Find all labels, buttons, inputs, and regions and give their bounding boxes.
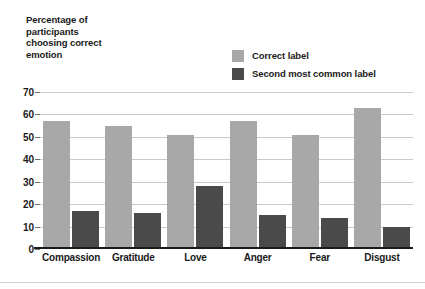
bar-second-most-common-label <box>383 227 410 249</box>
bar-chart-figure: Percentage of participants choosing corr… <box>0 0 425 289</box>
bar-group <box>289 92 351 249</box>
x-axis-category-label: Fear <box>289 252 351 263</box>
y-axis-tick-label: 60 <box>23 109 34 120</box>
x-axis-labels: CompassionGratitudeLoveAngerFearDisgust <box>40 252 413 263</box>
x-axis-category-label: Love <box>164 252 226 263</box>
plot-area: 010203040506070 <box>40 92 413 249</box>
y-axis-title-line-4: emotion <box>26 49 156 61</box>
legend-swatch-icon-correct-label <box>232 50 244 62</box>
y-axis-tick-label: 10 <box>23 221 34 232</box>
footer-divider <box>0 282 425 283</box>
x-axis-line <box>34 247 413 249</box>
x-axis-category-label: Anger <box>227 252 289 263</box>
bar-group <box>40 92 102 249</box>
y-axis-tick-label: 70 <box>23 87 34 98</box>
x-axis-category-label: Compassion <box>40 252 102 263</box>
bar-group <box>164 92 226 249</box>
bar-group <box>227 92 289 249</box>
bar-correct-label <box>354 108 381 249</box>
y-axis-tick-label: 20 <box>23 199 34 210</box>
y-axis-tick-label: 0 <box>28 244 34 255</box>
y-axis-tick-label: 30 <box>23 176 34 187</box>
bar-correct-label <box>292 135 319 249</box>
y-axis-tick-label: 40 <box>23 154 34 165</box>
bar-groups <box>40 92 413 249</box>
bar-correct-label <box>105 126 132 249</box>
y-axis-title-line-3: choosing correct <box>26 37 156 49</box>
bar-second-most-common-label <box>321 218 348 249</box>
x-axis-category-label: Disgust <box>351 252 413 263</box>
legend-label-correct-label: Correct label <box>252 50 309 61</box>
bar-group <box>351 92 413 249</box>
bar-correct-label <box>230 121 257 249</box>
legend-label-second-most-common-label: Second most common label <box>252 68 376 79</box>
bar-correct-label <box>43 121 70 249</box>
chart-legend: Correct label Second most common label <box>232 48 376 84</box>
y-axis-tick-mark <box>35 249 40 250</box>
y-axis-title-line-1: Percentage of <box>26 14 156 26</box>
bar-second-most-common-label <box>72 211 99 249</box>
legend-item-second-most-common-label: Second most common label <box>232 66 376 81</box>
bar-second-most-common-label <box>134 213 161 249</box>
y-axis-tick-label: 50 <box>23 131 34 142</box>
y-axis-title: Percentage of participants choosing corr… <box>26 14 156 60</box>
bar-second-most-common-label <box>196 186 223 249</box>
bar-correct-label <box>167 135 194 249</box>
bar-second-most-common-label <box>259 215 286 249</box>
x-axis-category-label: Gratitude <box>102 252 164 263</box>
y-axis-title-line-2: participants <box>26 26 156 38</box>
legend-item-correct-label: Correct label <box>232 48 376 63</box>
legend-swatch-icon-second-most-common-label <box>232 68 244 80</box>
bar-group <box>102 92 164 249</box>
